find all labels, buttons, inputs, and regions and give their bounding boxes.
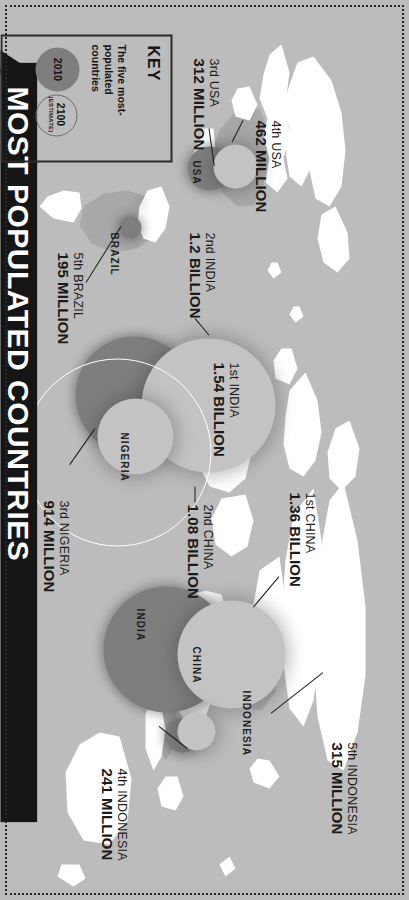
callout-china-2010: 2nd CHINA 1.08 BILLION: [185, 504, 213, 599]
callout-rank: 2nd CHINA: [200, 504, 213, 599]
callout-rank: 3rd USA: [206, 58, 219, 150]
key-label-2100-group: 2100 (ESTIMATE): [35, 94, 79, 134]
callout-value: 195 MILLION: [55, 252, 70, 344]
bubble-brazil-2010: [119, 216, 141, 238]
callout-value: 462 MILLION: [253, 120, 268, 212]
callout-indonesia-2100: 5th INDONESIA 315 MILLION: [329, 742, 357, 834]
map-label-china: CHINA: [190, 646, 201, 683]
map-label-usa: USA: [190, 160, 201, 184]
callout-rank: 4th INDONESIA: [114, 768, 127, 860]
map-label-indonesia: INDONESIA: [240, 690, 251, 755]
callout-value: 1.2 BILLION: [187, 232, 202, 318]
callout-india-2010: 2nd INDIA 1.2 BILLION: [187, 232, 215, 318]
callout-rank: 5th INDONESIA: [344, 742, 357, 834]
callout-value: 312 MILLION: [191, 58, 206, 150]
callout-value: 241 MILLION: [99, 768, 114, 860]
callout-rank: 5th BRAZIL: [70, 252, 83, 344]
callout-indonesia-2010: 4th INDONESIA 241 MILLION: [99, 768, 127, 860]
bubble-usa-2100: [213, 144, 257, 188]
callout-rank: 3rd NIGERIA: [56, 500, 69, 592]
callout-india-2100: 1st INDIA 1.54 BILLION: [211, 362, 239, 457]
callout-value: 914 MILLION: [41, 500, 56, 592]
callout-rank: 1st CHINA: [302, 492, 315, 587]
poster-canvas: MOST POPULATED COUNTRIES CHINA INDIA IND…: [0, 0, 409, 900]
callout-brazil-2010: 5th BRAZIL 195 MILLION: [55, 252, 83, 344]
key-subheading: The five most-populated countries: [88, 44, 127, 130]
callout-nigeria-2100: 3rd NIGERIA 914 MILLION: [41, 500, 69, 592]
callout-value: 315 MILLION: [329, 742, 344, 834]
key-heading: KEY: [143, 41, 161, 85]
map-label-india: INDIA: [134, 608, 145, 641]
callout-usa-2100: 4th USA 462 MILLION: [253, 120, 281, 212]
callout-china-2100: 1st CHINA 1.36 BILLION: [287, 492, 315, 587]
map-label-nigeria: NIGERIA: [118, 432, 129, 481]
leader-china-2010: [194, 486, 195, 502]
callout-value: 1.36 BILLION: [287, 492, 302, 587]
callout-rank: 1st INDIA: [226, 362, 239, 457]
key-label-2010: 2010: [35, 47, 79, 91]
callout-value: 1.54 BILLION: [211, 362, 226, 457]
title-banner: MOST POPULATED COUNTRIES: [0, 62, 37, 822]
callout-rank: 4th USA: [268, 120, 281, 212]
infographic-poster: MOST POPULATED COUNTRIES CHINA INDIA IND…: [0, 0, 409, 900]
key-label-2100: 2100: [55, 102, 67, 125]
callout-rank: 2nd INDIA: [202, 232, 215, 318]
callout-value: 1.08 BILLION: [185, 504, 200, 599]
key-label-2100-note: (ESTIMATE): [48, 96, 54, 132]
callout-usa-2010: 3rd USA 312 MILLION: [191, 58, 219, 150]
